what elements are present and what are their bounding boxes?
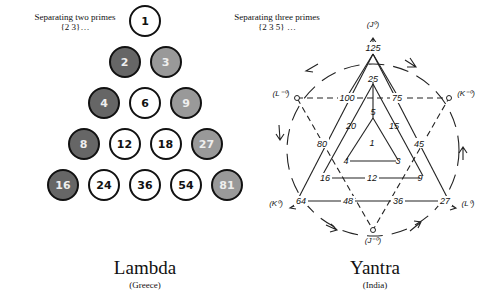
label-l-pos: (L⁰) [462, 199, 475, 208]
label-1: 1 [369, 138, 374, 148]
label-4: 4 [343, 156, 348, 166]
label-48: 48 [343, 196, 353, 206]
label-25: 25 [367, 74, 379, 84]
label-80: 80 [317, 139, 327, 149]
label-3: 3 [395, 156, 400, 166]
label-l-neg: (L⁻⁰) [273, 89, 290, 98]
yantra-subtitle: (India) [325, 280, 425, 290]
label-20: 20 [345, 121, 356, 131]
label-9: 9 [417, 173, 422, 183]
label-36: 36 [393, 196, 403, 206]
label-75: 75 [392, 93, 403, 103]
label-100: 100 [339, 93, 354, 103]
label-k-pos: (K⁰) [269, 199, 283, 208]
label-125: 125 [365, 43, 381, 53]
label-j-neg: (J⁻⁰) [365, 236, 382, 245]
label-16: 16 [320, 173, 330, 183]
label-15: 15 [389, 121, 400, 131]
label-5: 5 [370, 107, 376, 117]
label-45: 45 [414, 139, 425, 149]
label-27: 27 [439, 196, 451, 206]
yantra-title: Yantra [325, 257, 425, 279]
label-j-pos: (J⁰) [367, 20, 380, 29]
label-64: 64 [296, 196, 306, 206]
label-12: 12 [367, 173, 377, 183]
label-k-neg: (K⁻⁰) [457, 89, 475, 98]
